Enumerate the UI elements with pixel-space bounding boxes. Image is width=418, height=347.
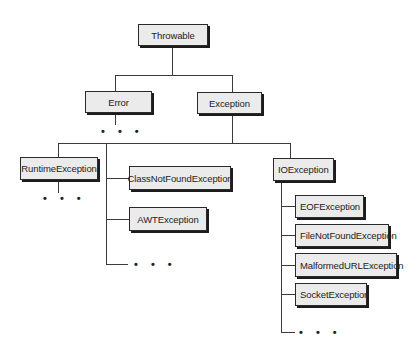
node-throwable: Throwable xyxy=(138,24,208,46)
connector-to-classnotfound xyxy=(106,178,129,179)
connector-exception-down xyxy=(232,114,233,143)
ellipsis-error-subclasses: • • • xyxy=(101,128,144,134)
connector-error-down xyxy=(115,113,116,125)
node-file-not-found-exception: FileNotFoundException xyxy=(295,224,389,247)
ellipsis-io-subclasses: • • • xyxy=(299,329,342,335)
connector-io-branch xyxy=(281,181,282,332)
connector-to-awt xyxy=(106,219,129,220)
node-socket-exception: SocketException xyxy=(295,283,367,306)
connector-to-socket xyxy=(281,294,295,295)
connector-exception-children xyxy=(58,143,291,144)
connector-to-io xyxy=(290,143,291,158)
node-awt-exception: AWTException xyxy=(129,207,207,231)
connector-middle-more xyxy=(106,264,128,265)
connector-to-runtime xyxy=(58,143,59,157)
node-error: Error xyxy=(85,91,152,113)
connector-to-malformedurl xyxy=(281,265,295,266)
connector-to-eof xyxy=(281,206,295,207)
connector-io-more xyxy=(281,332,295,333)
connector-middle-branch xyxy=(106,143,107,264)
connector-to-error xyxy=(115,75,116,91)
connector-throwable-children xyxy=(115,75,233,76)
node-malformed-url-exception: MalformedURLException xyxy=(295,253,397,277)
connector-throwable-down xyxy=(172,46,173,75)
node-runtime-exception: RuntimeException xyxy=(20,157,98,180)
node-class-not-found-exception: ClassNotFoundException xyxy=(129,166,231,190)
node-eof-exception: EOFException xyxy=(295,195,364,218)
connector-to-filenotfound xyxy=(281,235,295,236)
connector-to-exception xyxy=(232,75,233,92)
node-io-exception: IOException xyxy=(273,158,334,181)
ellipsis-runtime-subclasses: • • • xyxy=(43,195,86,201)
ellipsis-exception-subclasses: • • • xyxy=(134,261,177,267)
node-exception: Exception xyxy=(197,92,262,114)
